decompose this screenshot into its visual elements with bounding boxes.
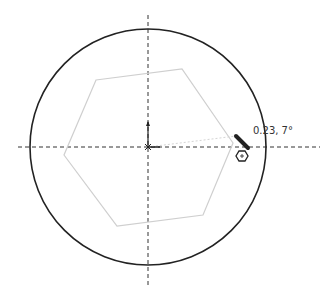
hexagon-snap-icon — [236, 151, 248, 161]
radius-preview-line — [148, 136, 236, 147]
sketch-canvas[interactable] — [0, 0, 328, 300]
dimension-tooltip: 0.23, 7° — [253, 125, 293, 136]
pencil-icon — [236, 136, 248, 148]
